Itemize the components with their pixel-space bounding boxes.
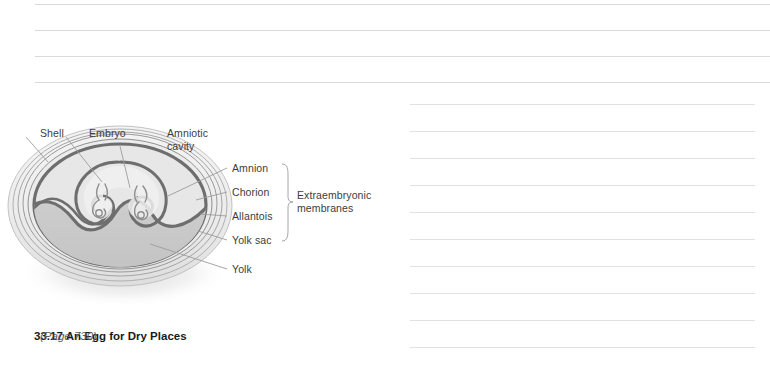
label-shell: Shell <box>40 127 64 140</box>
rule-line <box>410 104 755 105</box>
label-yolk: Yolk <box>232 263 252 276</box>
rule-line <box>410 320 755 321</box>
label-extraembryonic-membranes: Extraembryonic membranes <box>297 189 371 214</box>
label-amnion: Amnion <box>232 162 268 175</box>
rule-line <box>410 293 755 294</box>
rule-line <box>410 347 755 348</box>
figure-caption: 33.17An Egg for Dry Places(Page 730) <box>34 330 187 342</box>
rule-line <box>35 4 770 5</box>
rule-line <box>35 82 770 83</box>
extraembryonic-brace <box>282 164 293 241</box>
rule-line <box>35 56 770 57</box>
rule-line <box>410 212 755 213</box>
figure-page: Shell Embryo Amniotic cavity Amnion Chor… <box>0 0 770 368</box>
label-yolk-sac: Yolk sac <box>232 234 272 247</box>
label-allantois: Allantois <box>232 210 273 223</box>
amniotic-egg-figure: Shell Embryo Amniotic cavity Amnion Chor… <box>0 96 400 368</box>
rule-line <box>410 185 755 186</box>
label-embryo: Embryo <box>89 127 126 140</box>
rule-line <box>35 30 770 31</box>
rule-line <box>410 131 755 132</box>
label-amniotic-cavity: Amniotic cavity <box>167 127 208 152</box>
caption-page-ref: (Page 730) <box>40 330 187 342</box>
rule-line <box>410 239 755 240</box>
label-chorion: Chorion <box>232 186 269 199</box>
rule-line <box>410 266 755 267</box>
rule-line <box>410 158 755 159</box>
